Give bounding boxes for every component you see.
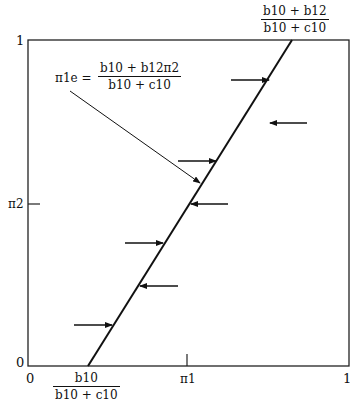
bottom-intercept-numerator: b10 — [53, 372, 120, 386]
x-tick-label-right: 1 — [343, 372, 351, 385]
equation-denominator: b10 + c10 — [98, 76, 181, 91]
x-axis-label: π1 — [180, 373, 196, 385]
y-tick-label-bottom: 0 — [16, 356, 24, 369]
equation-lhs: π1e = — [55, 72, 92, 84]
plot-frame — [28, 40, 349, 366]
top-intercept-fraction: b10 + b12 b10 + c10 — [261, 5, 329, 34]
equation-numerator: b10 + b12π2 — [98, 62, 181, 76]
y-axis-label: π2 — [8, 198, 24, 210]
equation-pointer-arrow — [70, 91, 200, 183]
bottom-intercept-denominator: b10 + c10 — [53, 386, 120, 401]
bottom-intercept-fraction: b10 b10 + c10 — [53, 372, 120, 401]
equation-fraction: b10 + b12π2 b10 + c10 — [98, 62, 181, 91]
top-intercept-denominator: b10 + c10 — [261, 19, 329, 34]
x-tick-label-left: 0 — [26, 372, 34, 385]
top-intercept-numerator: b10 + b12 — [261, 5, 329, 19]
y-tick-label-top: 1 — [16, 34, 24, 47]
